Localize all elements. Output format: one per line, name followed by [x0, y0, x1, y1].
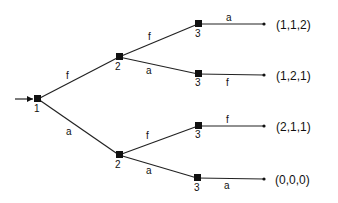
- edge-n3b-terminal: [198, 74, 264, 75]
- terminal-dot: [262, 124, 265, 127]
- payoff-label: (0,0,0): [275, 173, 310, 187]
- edge-n2b-n3c: [119, 126, 198, 155]
- edge-label: a: [224, 180, 230, 191]
- node-player-3-c: [195, 122, 202, 129]
- edge-n2b-n3d: [119, 155, 197, 178]
- edge-n2a-n3a: [119, 24, 198, 57]
- terminal-dot: [262, 177, 265, 180]
- edge-label: a: [146, 65, 152, 76]
- edge-label: a: [146, 165, 152, 176]
- edge-label: f: [226, 114, 229, 125]
- entry-arrow-icon: [15, 96, 33, 102]
- player-label: 2: [115, 159, 121, 170]
- game-tree-diagram: 1 2 2 3 3 3 3 f a f a f a a f f a (1,1,2…: [0, 0, 338, 203]
- edge-label: f: [226, 77, 229, 88]
- edge-n1-n2a: [38, 57, 119, 99]
- player-label: 3: [195, 77, 201, 88]
- player-label: 1: [34, 103, 40, 114]
- edge-n2a-n3b: [119, 57, 198, 74]
- payoff-label: (1,2,1): [276, 69, 311, 83]
- edge-n3d-terminal: [197, 178, 264, 179]
- edge-label: a: [226, 12, 232, 23]
- player-label: 3: [195, 28, 201, 39]
- player-label: 2: [115, 61, 121, 72]
- player-label: 3: [194, 182, 200, 193]
- node-player-2-upper: [116, 53, 123, 60]
- edge-label: f: [146, 130, 149, 141]
- node-player-3-b: [195, 70, 202, 77]
- node-player-3-d: [194, 174, 201, 181]
- payoff-label: (2,1,1): [276, 120, 311, 134]
- node-player-3-a: [195, 20, 202, 27]
- node-player-2-lower: [116, 151, 123, 158]
- edge-label: f: [148, 31, 151, 42]
- edge-label: a: [66, 126, 72, 137]
- edge-n1-n2b: [38, 99, 119, 155]
- terminal-dot: [262, 73, 265, 76]
- payoff-label: (1,1,2): [276, 18, 311, 32]
- edge-label: f: [66, 70, 69, 81]
- node-player-1: [34, 95, 41, 102]
- player-label: 3: [195, 129, 201, 140]
- terminal-dot: [262, 22, 265, 25]
